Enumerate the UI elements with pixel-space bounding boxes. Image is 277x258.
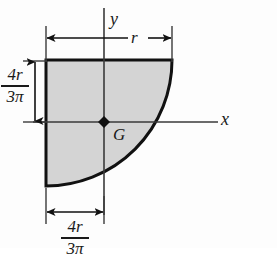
radius-dimension-group	[46, 26, 172, 62]
vertical-centroid-label: 4r 3π	[1, 66, 29, 106]
horizontal-centroid-denominator: 3π	[61, 240, 89, 258]
vertical-centroid-denominator: 3π	[1, 88, 29, 106]
centroid-label: G	[113, 126, 125, 143]
vertical-centroid-numerator: 4r	[1, 66, 29, 84]
horizontal-centroid-label: 4r 3π	[61, 218, 89, 258]
radius-dimension-label: r	[131, 29, 138, 46]
horizontal-centroid-numerator: 4r	[61, 218, 89, 236]
x-axis-label: x	[221, 110, 229, 128]
y-axis-label: y	[110, 10, 118, 28]
